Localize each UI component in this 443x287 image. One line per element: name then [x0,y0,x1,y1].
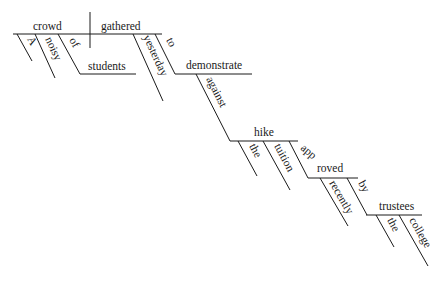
word-noisy: noisy [42,35,64,63]
word-college: college [406,215,434,250]
word-the-1: the [247,141,264,159]
word-of: of [67,35,82,49]
word-hike: hike [254,126,274,138]
word-approved-app: app [298,141,319,162]
word-by: by [355,178,372,194]
word-tuition: tuition [272,141,297,173]
sentence-diagram: crowd gathered A noisy of students yeste… [0,0,443,287]
word-to: to [164,35,179,49]
word-the-2: the [385,215,402,233]
word-approved-roved: roved [317,162,343,174]
word-against: against [203,74,230,110]
word-crowd: crowd [33,20,62,32]
word-trustees: trustees [379,200,415,212]
word-gathered: gathered [101,20,141,33]
word-students: students [88,60,126,72]
word-demonstrate: demonstrate [186,59,242,71]
